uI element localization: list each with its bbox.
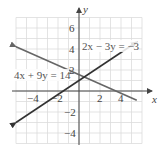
y-tick-label: −4: [64, 127, 76, 139]
equation-label-2: 4x + 9y = 14: [14, 69, 71, 81]
y-tick-label: 4: [69, 43, 75, 55]
x-axis-label: x: [151, 93, 157, 105]
y-tick-label: −2: [64, 106, 76, 118]
coordinate-plane: x y −4 −2 2 4 6 4 2 −2 −4 2x − 3y = −3 4…: [0, 0, 162, 151]
y-axis-label: y: [82, 3, 88, 15]
y-tick-label: 6: [69, 22, 75, 34]
equation-label-1: 2x − 3y = −3: [82, 40, 140, 52]
x-tick-label: 2: [97, 92, 103, 104]
x-tick-label: −4: [27, 92, 39, 104]
